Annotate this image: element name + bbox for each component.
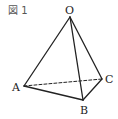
edge-ab (24, 86, 83, 100)
vertex-label-b: B (80, 104, 88, 117)
vertex-label-a: A (11, 81, 21, 94)
edge-bc (83, 79, 102, 100)
edge-ac-hidden (24, 79, 102, 86)
edge-oa (24, 17, 70, 86)
tetrahedron-diagram: O A B C (0, 0, 118, 119)
vertex-label-o: O (65, 4, 74, 17)
vertex-label-c: C (105, 73, 113, 86)
